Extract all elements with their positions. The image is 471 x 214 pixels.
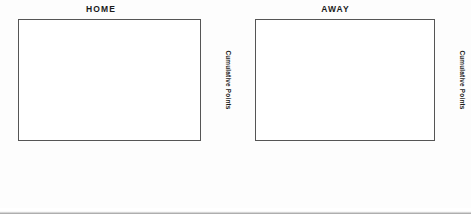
page-edge-shadow	[0, 208, 471, 214]
y-axis-label-home: Cumulative Points	[225, 50, 232, 109]
chart-home: HOME Cumulative Points	[0, 0, 238, 206]
chart-title-home: HOME	[0, 4, 238, 14]
plot-frame-away	[255, 19, 435, 141]
y-axis-home: Cumulative Points	[201, 19, 235, 141]
y-axis-away: Cumulative Points	[435, 19, 469, 141]
plot-frame-home	[18, 19, 201, 141]
bar-series-home	[20, 21, 199, 139]
chart-away: AWAY Cumulative Points	[238, 0, 471, 206]
charts-container: HOME Cumulative Points AWAY	[0, 0, 471, 206]
bar-series-away	[257, 21, 433, 139]
plot-area-away	[255, 19, 435, 141]
figure-page: HOME Cumulative Points AWAY	[0, 0, 471, 214]
plot-area-home	[18, 19, 201, 141]
x-axis-home	[18, 141, 201, 205]
x-axis-away	[255, 141, 435, 205]
y-axis-label-away: Cumulative Points	[459, 50, 466, 109]
chart-title-away: AWAY	[238, 4, 471, 14]
